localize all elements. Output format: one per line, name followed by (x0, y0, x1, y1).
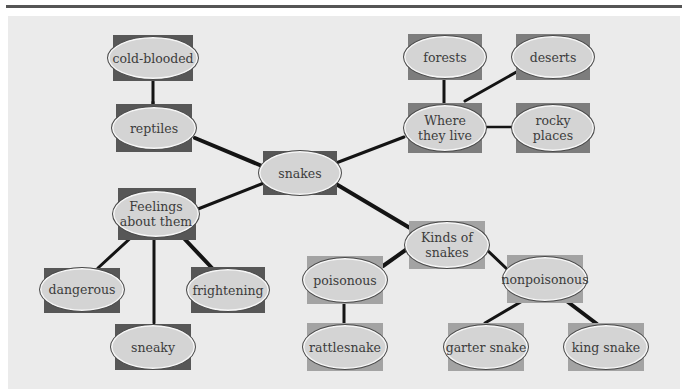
node-sneaky: sneaky (110, 324, 196, 370)
node-feelings-about-them: Feelings about them (112, 190, 200, 238)
node-garter-snake: garter snake (443, 324, 529, 370)
node-label: cold-blooded (107, 36, 199, 80)
node-label: garter snake (443, 324, 529, 370)
node-label: sneaky (110, 324, 196, 370)
node-label: nonpoisonous (502, 256, 588, 302)
node-label: frightening (186, 268, 270, 312)
node-label: king snake (563, 324, 649, 370)
node-label: Where they live (403, 104, 487, 152)
node-label: snakes (258, 150, 342, 196)
node-poisonous: poisonous (302, 257, 388, 303)
node-king-snake: king snake (563, 324, 649, 370)
node-label: dangerous (39, 267, 125, 312)
node-reptiles: reptiles (111, 106, 197, 150)
node-forests: forests (403, 35, 487, 79)
node-label: deserts (511, 35, 595, 79)
node-label: Feelings about them (112, 190, 200, 238)
node-label: forests (403, 35, 487, 79)
node-label: reptiles (111, 106, 197, 150)
node-label: Kinds of snakes (404, 221, 490, 269)
node-snakes-center: snakes (258, 150, 342, 196)
node-dangerous: dangerous (39, 267, 125, 312)
node-where-they-live: Where they live (403, 104, 487, 152)
node-frightening: frightening (186, 268, 270, 312)
node-kinds-of-snakes: Kinds of snakes (404, 221, 490, 269)
node-cold-blooded: cold-blooded (107, 36, 199, 80)
node-label: rattlesnake (302, 324, 388, 370)
node-rocky-places: rocky places (511, 104, 595, 152)
node-label: poisonous (302, 257, 388, 303)
node-deserts: deserts (511, 35, 595, 79)
node-nonpoisonous: nonpoisonous (502, 256, 588, 302)
node-rattlesnake: rattlesnake (302, 324, 388, 370)
node-label: rocky places (511, 104, 595, 152)
